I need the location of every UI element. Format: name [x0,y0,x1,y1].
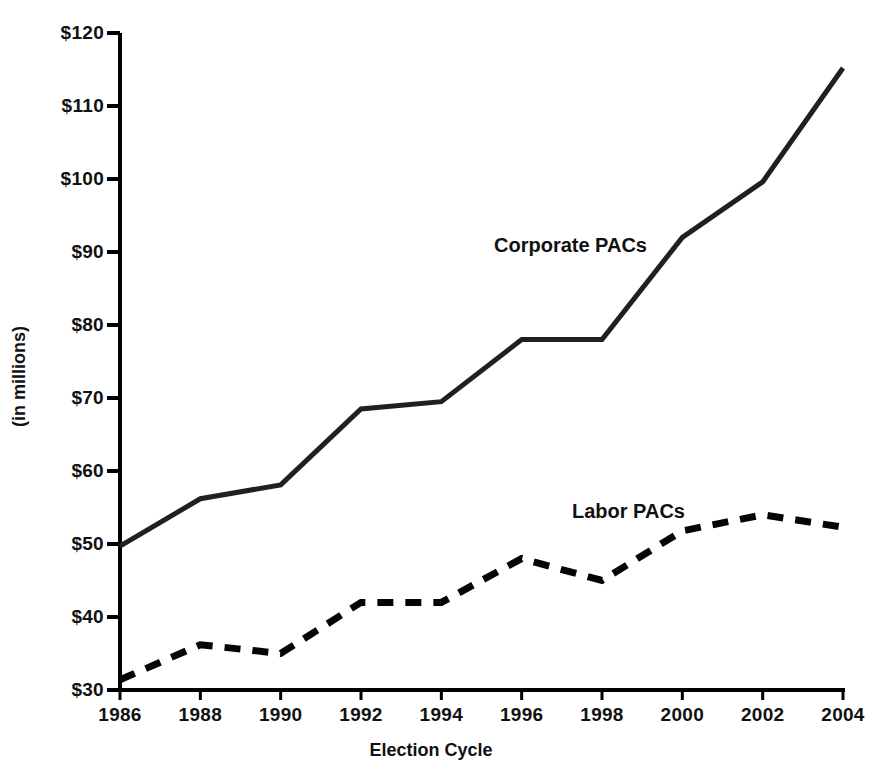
y-tick-label-90: $90 [14,241,104,263]
x-tick-label-2002: 2002 [741,704,784,726]
x-tick-label-1992: 1992 [339,704,382,726]
axis-lines [120,33,845,690]
series-label-corporate-pacs: Corporate PACs [494,234,647,257]
x-tick-label-1986: 1986 [98,704,141,726]
x-tick-label-1988: 1988 [179,704,222,726]
series-label-labor-pacs: Labor PACs [572,500,685,523]
y-tick-label-100: $100 [14,168,104,190]
y-tick-label-120: $120 [14,22,104,44]
y-tick-label-40: $40 [14,606,104,628]
x-tick-label-1996: 1996 [500,704,543,726]
x-tick-label-1990: 1990 [259,704,302,726]
tick-marks [107,33,843,700]
y-tick-label-30: $30 [14,679,104,701]
y-axis-title: (in millions) [9,317,30,437]
x-tick-label-2000: 2000 [661,704,704,726]
x-axis-title: Election Cycle [0,740,874,761]
series-line-corporate-pacs [120,68,843,546]
chart-container: $30$40$50$60$70$80$90$100$110$120 198619… [0,0,886,773]
x-tick-label-1998: 1998 [580,704,623,726]
x-tick-label-1994: 1994 [420,704,463,726]
series-line-labor-pacs [120,515,843,680]
y-tick-label-50: $50 [14,533,104,555]
line-chart-plot [0,0,886,773]
y-tick-label-60: $60 [14,460,104,482]
series-paths [120,68,843,680]
x-tick-label-2004: 2004 [821,704,864,726]
y-tick-label-110: $110 [14,95,104,117]
